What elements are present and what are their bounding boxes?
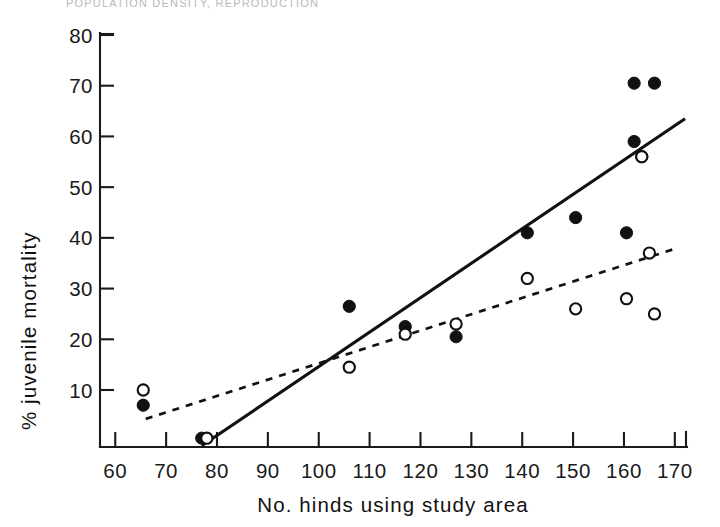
x-axis-title: No. hinds using study area — [257, 493, 528, 516]
y-tick-label-50: 50 — [69, 176, 93, 199]
x-tick-label-100: 100 — [301, 459, 337, 482]
data-point-open — [138, 384, 149, 395]
x-tick-label-90: 90 — [256, 459, 280, 482]
x-tick-label-150: 150 — [555, 459, 591, 482]
x-tick-label-110: 110 — [353, 459, 387, 482]
data-point-open — [522, 273, 533, 284]
y-tick-label-40: 40 — [69, 226, 93, 249]
x-tick-label-170: 170 — [657, 459, 693, 482]
figure-container: POPULATION DENSITY, REPRODUCTION 1020304… — [0, 0, 720, 527]
x-tick-label-70: 70 — [154, 459, 178, 482]
y-tick-label-10: 10 — [69, 379, 93, 402]
x-tick-label-80: 80 — [205, 459, 229, 482]
regression-line-group — [146, 119, 685, 446]
y-tick-label-80: 80 — [69, 24, 93, 47]
data-point-open — [450, 318, 461, 329]
x-tick-label-140: 140 — [504, 459, 540, 482]
data-point-filled — [521, 227, 533, 239]
x-tick-label-group: 60708090100110120130140150160170 — [103, 459, 692, 482]
data-point-filled — [628, 77, 640, 89]
x-tick-label-160: 160 — [606, 459, 642, 482]
data-point-filled — [343, 300, 355, 312]
data-point-open — [621, 293, 632, 304]
x-tick-label-130: 130 — [453, 459, 489, 482]
x-tick-label-60: 60 — [103, 459, 127, 482]
running-header: POPULATION DENSITY, REPRODUCTION — [66, 0, 666, 9]
data-point-open — [344, 362, 355, 373]
data-point-open — [649, 308, 660, 319]
data-point-open — [570, 303, 581, 314]
x-tick-label-120: 120 — [403, 459, 439, 482]
scatter-plot: 1020304050607080 60708090100110120130140… — [0, 0, 720, 527]
y-tick-label-70: 70 — [69, 74, 93, 97]
data-point-filled — [648, 77, 660, 89]
data-point-filled — [450, 331, 462, 343]
data-point-open — [644, 247, 655, 258]
y-tick-label-60: 60 — [69, 125, 93, 148]
data-point-open — [201, 433, 212, 444]
y-tick-label-30: 30 — [69, 277, 93, 300]
data-point-open — [400, 329, 411, 340]
data-point-filled — [570, 211, 582, 223]
y-tick-label-group: 1020304050607080 — [69, 24, 93, 402]
data-point-filled — [628, 135, 640, 147]
axes — [100, 33, 687, 447]
y-tick-group — [100, 35, 114, 390]
data-point-group — [137, 77, 660, 444]
y-axis-title: % juvenile mortality — [17, 231, 40, 430]
data-point-filled — [620, 227, 632, 239]
solid-regression-line — [202, 119, 685, 446]
data-point-filled — [137, 399, 149, 411]
data-point-open — [636, 151, 647, 162]
y-tick-label-20: 20 — [69, 328, 93, 351]
